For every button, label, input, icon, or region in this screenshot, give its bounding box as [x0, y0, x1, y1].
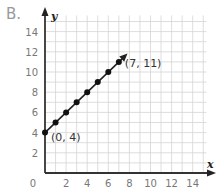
y-tick-label: 14 [25, 27, 38, 38]
data-point [63, 109, 69, 115]
data-point [42, 130, 48, 136]
y-tick-label: 4 [32, 128, 38, 139]
x-tick-label: 8 [126, 178, 132, 189]
chart-graph: xy246810121424681012140(0, 4)(7, 11) [0, 0, 217, 192]
x-tick-label: 6 [105, 178, 111, 189]
x-tick-label: 12 [165, 178, 178, 189]
x-axis-label: x [206, 158, 214, 171]
x-tick-label: 4 [84, 178, 90, 189]
y-tick-label: 6 [32, 107, 38, 118]
point-annotation: (7, 11) [125, 57, 162, 70]
x-tick-label: 2 [63, 178, 69, 189]
y-axis-arrow-icon [42, 7, 49, 16]
y-tick-label: 12 [25, 47, 38, 58]
point-annotation: (0, 4) [51, 131, 81, 144]
y-tick-label: 8 [32, 87, 38, 98]
x-tick-label: 14 [186, 178, 199, 189]
data-point [105, 69, 111, 75]
data-point [95, 79, 101, 85]
data-point [74, 99, 80, 105]
y-tick-label: 2 [32, 148, 38, 159]
y-tick-label: 10 [25, 67, 38, 78]
x-tick-label: 10 [144, 178, 157, 189]
y-axis-label: y [50, 10, 59, 23]
origin-label: 0 [30, 178, 36, 189]
data-point [116, 59, 122, 65]
data-point [84, 89, 90, 95]
data-point [53, 120, 59, 126]
